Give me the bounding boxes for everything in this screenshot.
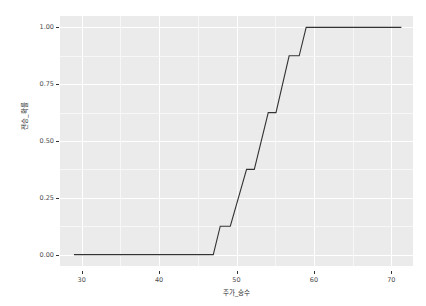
- y-tick-mark: [56, 198, 59, 199]
- y-tick-mark: [56, 27, 59, 28]
- ecdf-chart: 전승_확률 0.000.250.500.751.00 3040506070 주가…: [0, 0, 426, 306]
- x-tick-mark: [237, 271, 238, 274]
- y-tick-label: 0.25: [20, 194, 54, 202]
- y-tick-label: 0.75: [20, 80, 54, 88]
- y-tick-mark: [56, 255, 59, 256]
- x-tick-label: 40: [144, 276, 174, 284]
- x-tick-label: 70: [376, 276, 406, 284]
- y-tick-mark: [56, 141, 59, 142]
- data-line: [60, 16, 413, 266]
- y-tick-label: 0.50: [20, 137, 54, 145]
- x-tick-label: 50: [222, 276, 252, 284]
- y-tick-label: 1.00: [20, 23, 54, 31]
- y-axis-ticks: 0.000.250.500.751.00: [18, 0, 54, 306]
- y-tick-label: 0.00: [20, 251, 54, 259]
- x-tick-mark: [314, 271, 315, 274]
- plot-panel: [60, 16, 413, 266]
- y-tick-mark: [56, 84, 59, 85]
- x-tick-mark: [82, 271, 83, 274]
- x-axis-ticks: 3040506070: [0, 271, 426, 285]
- series-polyline: [74, 27, 401, 254]
- x-tick-label: 30: [67, 276, 97, 284]
- x-axis-title: 주가_승수: [60, 287, 413, 297]
- x-tick-mark: [391, 271, 392, 274]
- x-tick-mark: [159, 271, 160, 274]
- x-tick-label: 60: [299, 276, 329, 284]
